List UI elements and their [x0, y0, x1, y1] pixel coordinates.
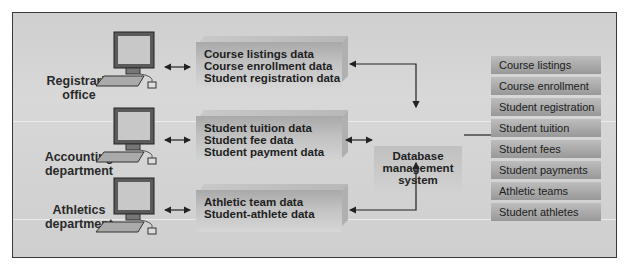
list-item: Student payments — [491, 161, 601, 179]
list-item: Course listings — [491, 56, 601, 74]
list-item: Course enrollment — [491, 77, 601, 95]
list-item: Student fees — [491, 140, 601, 158]
list-item: Athletic teams — [491, 182, 601, 200]
database-tables-list: Course listings Course enrollment Studen… — [491, 56, 601, 224]
list-item: Student registration — [491, 98, 601, 116]
list-item: Student tuition — [491, 119, 601, 137]
list-item: Student athletes — [491, 203, 601, 221]
